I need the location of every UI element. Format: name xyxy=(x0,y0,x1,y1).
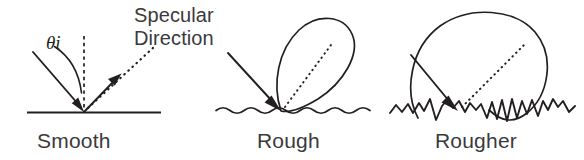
figure-container: θi Specular Direction Smooth Rough xyxy=(0,0,584,160)
specular-direction-dotted-rough xyxy=(285,45,331,107)
caption-rough: Rough xyxy=(257,129,320,152)
specular-direction-dotted-rougher xyxy=(462,44,525,107)
incident-ray-smooth xyxy=(33,52,79,105)
incident-angle-label: θi xyxy=(46,32,61,53)
panel-rougher: Rougher xyxy=(390,12,575,152)
caption-rougher: Rougher xyxy=(435,129,517,152)
incident-angle-arc xyxy=(55,47,82,94)
caption-smooth: Smooth xyxy=(37,129,111,152)
incident-ray-rougher xyxy=(411,55,449,101)
reflection-roughness-diagram: θi Specular Direction Smooth Rough xyxy=(0,0,584,160)
incident-ray-rough xyxy=(228,53,272,101)
specular-direction-label-line2: Direction xyxy=(134,27,214,49)
specular-direction-label-line1: Specular xyxy=(134,4,214,26)
panel-smooth: θi Specular Direction Smooth xyxy=(27,4,214,152)
incident-ray-arrowhead-rougher xyxy=(442,96,459,112)
panel-rough: Rough xyxy=(216,18,370,152)
